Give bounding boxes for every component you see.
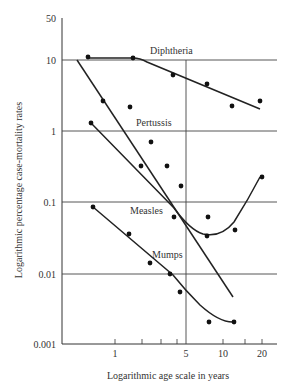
data-points — [86, 55, 265, 325]
y-tick-0.1: 0.1 — [44, 197, 57, 208]
x-tick-labels: 1 5 10 20 — [113, 348, 268, 359]
chart: 50 10 1 0.1 0.01 0.001 1 5 10 20 Logarit… — [0, 0, 293, 392]
y-tick-0.01: 0.01 — [39, 269, 57, 280]
x-ticks — [115, 339, 262, 344]
label-measles: Measles — [130, 205, 163, 216]
pertussis-fit-line — [77, 60, 233, 297]
x-tick-10: 10 — [218, 348, 228, 359]
y-tick-labels: 50 10 1 0.1 0.01 0.001 — [34, 13, 57, 350]
y-tick-1: 1 — [51, 126, 56, 137]
diphtheria-fit-line — [88, 58, 260, 109]
x-tick-1: 1 — [113, 348, 118, 359]
label-mumps: Mumps — [152, 249, 183, 260]
label-diphtheria: Diphtheria — [150, 45, 193, 56]
mumps-fit-line — [93, 207, 234, 322]
fit-lines — [77, 58, 260, 322]
x-tick-5: 5 — [184, 348, 189, 359]
y-tick-0.001: 0.001 — [34, 339, 57, 350]
y-tick-10: 10 — [46, 55, 56, 66]
y-tick-50: 50 — [46, 13, 56, 24]
axes — [62, 18, 277, 344]
x-tick-20: 20 — [257, 348, 267, 359]
y-axis-label: Logarithmic percentage case-mortality ra… — [13, 102, 24, 278]
x-axis-label: Logarithmic age scale in years — [107, 370, 229, 381]
label-pertussis: Pertussis — [136, 117, 172, 128]
